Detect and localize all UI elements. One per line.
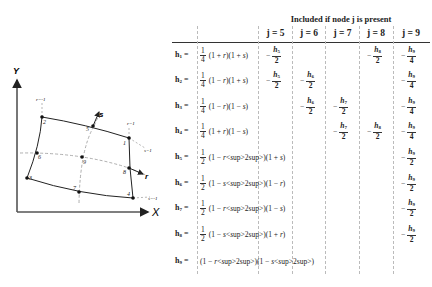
- col-header-j5: j = 5: [259, 28, 292, 38]
- cell-h6-j9: −h92: [395, 174, 425, 192]
- formula-h3: 14(1 − r)(1 − s): [200, 97, 248, 115]
- svg-text:1: 1: [123, 140, 126, 146]
- cell-h3-j9: −h94: [395, 97, 425, 115]
- svg-text:2: 2: [43, 119, 46, 125]
- row-label-h1: h1 =: [175, 50, 197, 59]
- cell-h1-j5: −h52: [260, 46, 290, 64]
- edge-left: [27, 117, 42, 178]
- formula-h8: 12(1 − s<sup>2sup>)(1 + r): [200, 225, 285, 243]
- cell-h4-j9: −h94: [395, 122, 425, 140]
- formula-h6: 12(1 − s<sup>2sup>)(1 − r): [200, 174, 285, 192]
- row-label-h5: h5 =: [175, 152, 197, 161]
- svg-text:7: 7: [73, 185, 77, 191]
- cell-h1-j8: −h82: [361, 46, 391, 64]
- node-4: [131, 196, 135, 200]
- row-label-h7: h7 =: [175, 203, 197, 212]
- r-axis-label: r: [145, 172, 149, 181]
- formula-h7: 12(1 − r<sup>2sup>)(1 − s): [200, 199, 285, 217]
- cell-h2-j9: −h94: [395, 71, 425, 89]
- cell-h5-j9: −h92: [395, 148, 425, 166]
- col-divider: [325, 26, 326, 274]
- svg-text:9: 9: [83, 159, 86, 165]
- svg-text:3: 3: [28, 175, 32, 181]
- svg-text:5: 5: [86, 126, 89, 132]
- formula-h9: (1 − r<sup>2sup>)(1 − s<sup>2sup>): [200, 252, 314, 270]
- label-s-pos: s=1: [144, 148, 152, 153]
- cell-h7-j9: −h92: [395, 199, 425, 217]
- row-label-h4: h4 =: [175, 126, 197, 135]
- col-header-j9: j = 9: [394, 28, 428, 38]
- cell-h2-j6: −h62: [294, 71, 324, 89]
- label-r-neg: r=-1: [36, 97, 46, 102]
- col-header-j8: j = 8: [359, 28, 393, 38]
- label-r-pos: r=1: [127, 121, 135, 126]
- node-1: [127, 136, 131, 140]
- table-title: Included if node j is present: [250, 14, 432, 24]
- row-label-h6: h6 =: [175, 178, 197, 187]
- col-header-j7: j = 7: [326, 28, 359, 38]
- svg-text:8: 8: [123, 169, 126, 175]
- node-7: [77, 190, 81, 194]
- cell-h1-j9: −h94: [395, 46, 425, 64]
- formula-h5: 12(1 − r<sup>2sup>)(1 + s): [200, 148, 285, 166]
- cell-h4-j8: −h82: [361, 122, 391, 140]
- s-axis-label: s: [99, 110, 104, 119]
- label-s-neg: s=-1: [148, 196, 158, 201]
- cell-h3-j6: −h62: [294, 97, 324, 115]
- formula-h1: 14(1 + r)(1 + s): [200, 46, 248, 64]
- svg-text:4: 4: [127, 191, 130, 197]
- col-divider: [292, 26, 293, 274]
- cell-h3-j7: −h72: [327, 97, 357, 115]
- x-axis-label: X: [151, 206, 160, 218]
- row-label-h2: h2 =: [175, 75, 197, 84]
- row-label-h3: h3 =: [175, 101, 197, 110]
- col-divider: [197, 26, 198, 274]
- formula-h2: 14(1 − r)(1 + s): [200, 71, 248, 89]
- header-rule: [172, 42, 430, 43]
- y-axis-label: Y: [13, 66, 20, 76]
- element-diagram: Y X s r r=-1 r=1 s=1 s=-1 1 2 3 4 5 6 7 …: [0, 0, 170, 287]
- cell-h2-j5: −h52: [260, 71, 290, 89]
- node-8: [127, 166, 131, 170]
- node-5: [91, 124, 95, 128]
- formula-h4: 14(1 + r)(1 − s): [200, 122, 248, 140]
- col-divider: [393, 26, 394, 274]
- cell-h4-j7: −h72: [327, 122, 357, 140]
- col-divider: [359, 26, 360, 274]
- col-header-j6: j = 6: [293, 28, 325, 38]
- svg-text:6: 6: [38, 154, 41, 160]
- cell-h8-j9: −h92: [395, 225, 425, 243]
- row-label-h9: h9 =: [175, 256, 197, 265]
- row-label-h8: h8 =: [175, 229, 197, 238]
